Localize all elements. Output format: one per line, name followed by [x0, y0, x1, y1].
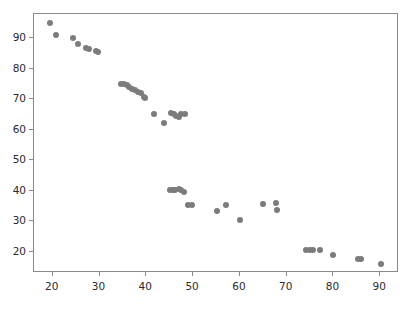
- x-tick-mark: [239, 272, 240, 276]
- x-tick-label: 80: [326, 281, 339, 292]
- scatter-point: [182, 111, 188, 117]
- x-tick-mark: [332, 272, 333, 276]
- scatter-point: [358, 256, 364, 262]
- y-tick-label: 90: [13, 32, 26, 43]
- x-tick-label: 60: [232, 281, 245, 292]
- scatter-points-layer: [34, 14, 397, 271]
- scatter-point: [189, 202, 195, 208]
- y-tick-label: 70: [13, 93, 26, 104]
- scatter-point: [378, 261, 384, 267]
- scatter-point: [223, 202, 229, 208]
- x-tick-label: 20: [45, 281, 58, 292]
- scatter-point: [330, 252, 336, 258]
- y-tick-label: 60: [13, 124, 26, 135]
- scatter-point: [151, 111, 157, 117]
- scatter-point: [260, 201, 266, 207]
- scatter-point: [53, 32, 59, 38]
- scatter-point: [181, 189, 187, 195]
- x-tick-label: 50: [185, 281, 198, 292]
- y-tick-label: 40: [13, 184, 26, 195]
- x-tick-label: 30: [92, 281, 105, 292]
- y-tick-label: 20: [13, 245, 26, 256]
- scatter-point: [310, 247, 316, 253]
- y-tick-label: 30: [13, 215, 26, 226]
- x-tick-label: 70: [279, 281, 292, 292]
- scatter-point: [237, 217, 243, 223]
- scatter-point: [75, 41, 81, 47]
- scatter-point: [161, 120, 167, 126]
- scatter-point: [317, 247, 323, 253]
- scatter-point: [95, 49, 101, 55]
- scatter-point: [274, 207, 280, 213]
- scatter-plot-figure: 2030405060708090 2030405060708090: [0, 0, 411, 309]
- scatter-point: [47, 20, 53, 26]
- scatter-point: [273, 200, 279, 206]
- scatter-point: [142, 95, 148, 101]
- y-tick-label: 80: [13, 63, 26, 74]
- y-tick-label: 50: [13, 154, 26, 165]
- x-tick-mark: [52, 272, 53, 276]
- x-tick-mark: [379, 272, 380, 276]
- x-tick-mark: [286, 272, 287, 276]
- x-tick-mark: [145, 272, 146, 276]
- scatter-point: [86, 46, 92, 52]
- plot-area-frame: [33, 13, 398, 272]
- x-tick-mark: [192, 272, 193, 276]
- x-tick-mark: [99, 272, 100, 276]
- x-tick-label: 40: [139, 281, 152, 292]
- x-tick-label: 90: [373, 281, 386, 292]
- scatter-point: [214, 208, 220, 214]
